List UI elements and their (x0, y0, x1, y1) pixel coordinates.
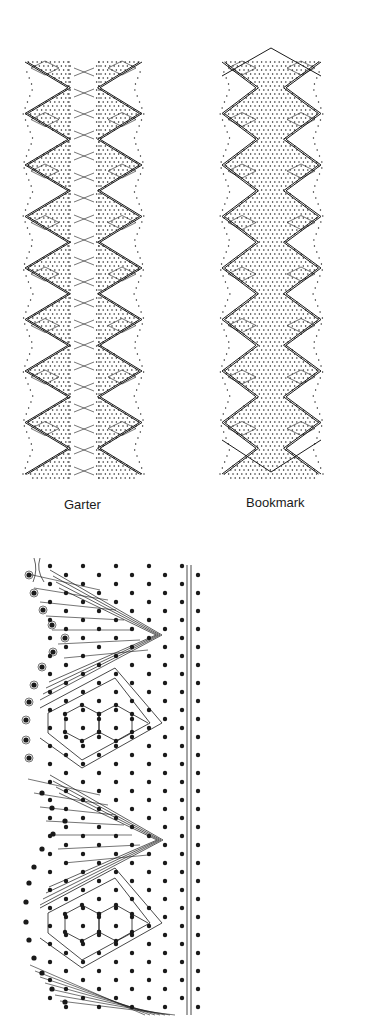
garter-pricking (0, 0, 180, 480)
bookmark-label: Bookmark (246, 495, 305, 510)
bookmark-pricking (180, 0, 366, 480)
bookmark-diagram (180, 0, 366, 480)
garter-label: Garter (64, 497, 101, 512)
garter-diagram (0, 0, 180, 480)
working-diagram-svg (0, 540, 240, 1020)
working-diagram (0, 540, 240, 1020)
